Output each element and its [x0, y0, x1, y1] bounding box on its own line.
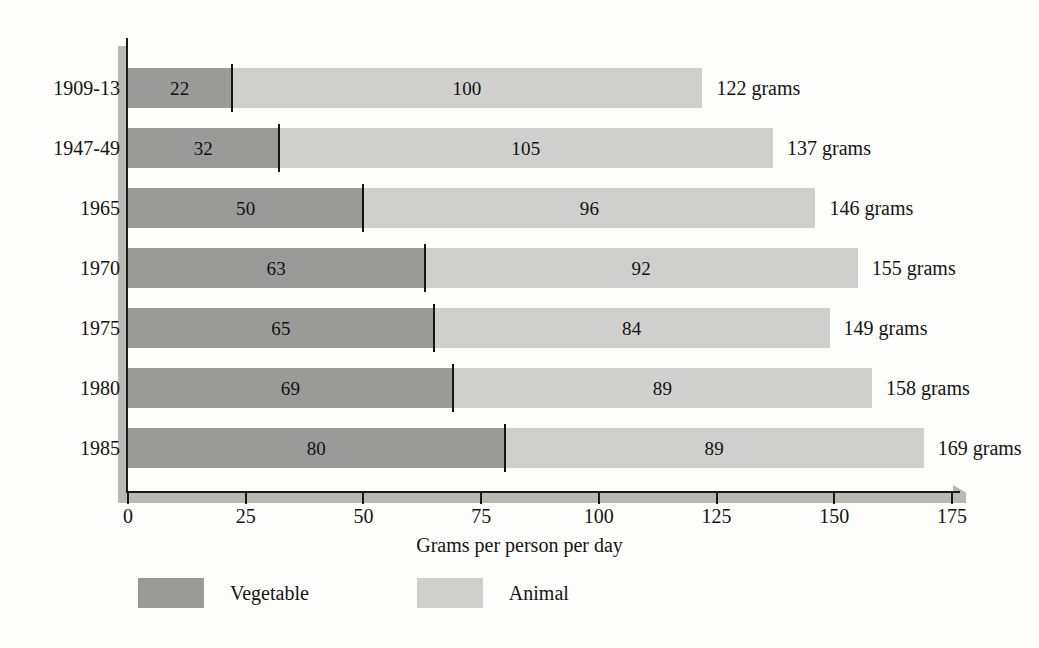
bar-segment-divider: [504, 424, 506, 472]
x-axis-tick: [362, 493, 364, 504]
x-axis-tick-label: 100: [584, 506, 614, 526]
y-axis-category-label: 1965: [8, 198, 120, 218]
x-axis-tick: [127, 493, 129, 504]
bar-value-vegetable: 63: [267, 259, 286, 278]
x-axis-tick-label: 25: [236, 506, 256, 526]
bar-segment-animal: 89: [505, 428, 924, 468]
bar-segment-divider: [362, 184, 364, 232]
legend-label-vegetable: Vegetable: [230, 582, 309, 605]
bar-value-vegetable: 50: [236, 199, 255, 218]
bar-segment-vegetable: 22: [128, 68, 232, 108]
x-axis-tick-label: 50: [353, 506, 373, 526]
bar-segment-vegetable: 80: [128, 428, 505, 468]
x-axis-tick: [716, 493, 718, 504]
bar-segment-divider: [452, 364, 454, 412]
y-axis-category-label: 1980: [8, 378, 120, 398]
bar-segment-animal: 84: [434, 308, 830, 348]
y-axis-category-label: 1985: [8, 438, 120, 458]
bar-total-label: 149 grams: [844, 318, 928, 338]
bar-value-animal: 100: [452, 79, 481, 98]
bar-segment-divider: [278, 124, 280, 172]
bar-total-label: 122 grams: [716, 78, 800, 98]
bar-value-animal: 96: [580, 199, 599, 218]
legend-item-animal: Animal: [417, 578, 569, 608]
bar-total-label: 146 grams: [829, 198, 913, 218]
bar-segment-divider: [433, 304, 435, 352]
bar-segment-vegetable: 50: [128, 188, 363, 228]
bar-value-animal: 89: [653, 379, 672, 398]
bar-segment-vegetable: 65: [128, 308, 434, 348]
x-axis-title: Grams per person per day: [0, 534, 1039, 557]
bar-value-animal: 89: [705, 439, 724, 458]
bar-segment-vegetable: 63: [128, 248, 425, 288]
y-axis-category-label: 1970: [8, 258, 120, 278]
x-axis-tick-label: 75: [471, 506, 491, 526]
y-axis-category-label: 1909-13: [8, 78, 120, 98]
bar-segment-vegetable: 69: [128, 368, 453, 408]
bar-value-vegetable: 65: [271, 319, 290, 338]
x-axis-tick: [951, 493, 953, 504]
bar-value-vegetable: 22: [170, 79, 189, 98]
bar-segment-animal: 89: [453, 368, 872, 408]
legend: Vegetable Animal: [138, 578, 569, 608]
bar-value-animal: 84: [622, 319, 641, 338]
x-axis-tick: [245, 493, 247, 504]
legend-swatch-vegetable-icon: [138, 578, 204, 608]
x-axis-tick-label: 150: [819, 506, 849, 526]
stacked-bar-chart: 221003210550966392658469898089 1909-1319…: [0, 0, 1039, 648]
bar-segment-animal: 96: [363, 188, 815, 228]
x-axis-tick: [833, 493, 835, 504]
bar-value-vegetable: 32: [194, 139, 213, 158]
bar-value-vegetable: 69: [281, 379, 300, 398]
bar-value-animal: 105: [511, 139, 540, 158]
bar-total-label: 155 grams: [872, 258, 956, 278]
bar-segment-vegetable: 32: [128, 128, 279, 168]
bar-total-label: 158 grams: [886, 378, 970, 398]
bar-total-label: 169 grams: [938, 438, 1022, 458]
bar-segment-divider: [231, 64, 233, 112]
legend-item-vegetable: Vegetable: [138, 578, 309, 608]
y-axis-category-label: 1947-49: [8, 138, 120, 158]
legend-swatch-animal-icon: [417, 578, 483, 608]
legend-label-animal: Animal: [509, 582, 569, 605]
x-axis-tick: [598, 493, 600, 504]
bar-segment-animal: 100: [232, 68, 703, 108]
bar-value-animal: 92: [632, 259, 651, 278]
bar-segment-animal: 92: [425, 248, 858, 288]
bar-value-vegetable: 80: [307, 439, 326, 458]
y-axis-category-label: 1975: [8, 318, 120, 338]
bar-segment-divider: [424, 244, 426, 292]
bar-segment-animal: 105: [279, 128, 773, 168]
bar-total-label: 137 grams: [787, 138, 871, 158]
x-axis-tick: [480, 493, 482, 504]
x-axis-tick-label: 0: [123, 506, 133, 526]
x-axis-tick-label: 175: [937, 506, 967, 526]
x-axis-tick-label: 125: [702, 506, 732, 526]
